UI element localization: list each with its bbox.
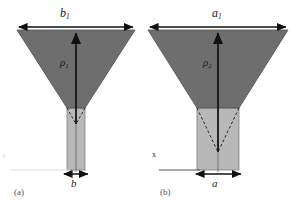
panel-b-caption: (b) [160, 187, 171, 197]
panel-a-height-label: ρ1 [60, 57, 69, 69]
panel-b [148, 27, 288, 174]
panel-b-stem-width-label: a [212, 178, 218, 189]
panel-a [10, 27, 135, 174]
figure-canvas [0, 0, 295, 211]
panel-b-top-width-label: a1 [212, 7, 222, 20]
panel-b-axis-label: x [152, 151, 156, 159]
panel-b-height-label: ρ2 [203, 57, 212, 69]
panel-a-stem-width-label: b [71, 178, 77, 189]
panel-a-top-width-label: b1 [60, 7, 70, 20]
panel-a-caption: (a) [14, 187, 24, 197]
panel-a-axis-label: x [2, 152, 6, 160]
